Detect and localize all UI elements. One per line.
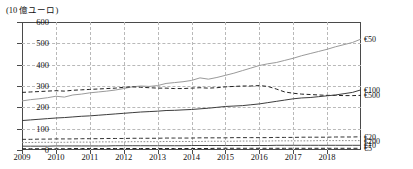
x-tick-label: 2016	[251, 152, 268, 162]
denomination-label: €5	[364, 144, 372, 153]
y-axis-unit-label: (10 億ユーロ)	[6, 3, 58, 15]
x-tick-label: 2013	[149, 152, 166, 162]
x-tick-label: 2014	[183, 152, 200, 162]
x-tick-label: 2017	[285, 152, 302, 162]
x-tick-label: 2009	[14, 152, 31, 162]
denomination-label: €50	[364, 35, 376, 44]
x-tick-label: 2011	[81, 152, 98, 162]
x-tick-label: 2015	[217, 152, 234, 162]
chart-container: (10 億ユーロ) 0100200300400500600 2009201020…	[0, 0, 413, 169]
series-line-eur500	[22, 86, 361, 96]
series-lines	[22, 22, 361, 150]
x-tick-label: 2018	[319, 152, 336, 162]
series-line-eur20	[22, 137, 361, 140]
series-line-eur10	[22, 145, 361, 146]
series-line-eur200	[22, 141, 361, 143]
series-line-eur50	[22, 39, 361, 101]
denomination-label: €500	[364, 91, 380, 100]
x-tick-label: 2012	[115, 152, 132, 162]
x-tick-label: 2010	[47, 152, 64, 162]
